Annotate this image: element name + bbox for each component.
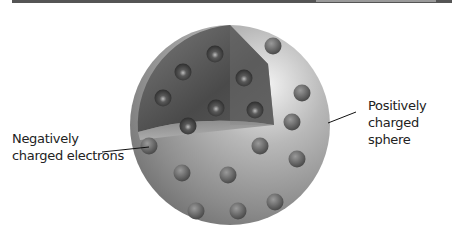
electrons-label: Negatively charged electrons	[12, 130, 124, 164]
electron	[284, 114, 301, 131]
electron	[174, 165, 191, 182]
sphere-label-line1: Positively	[368, 97, 462, 114]
electron	[208, 100, 225, 117]
electron	[155, 90, 172, 107]
sphere-label: Positively charged sphere	[368, 97, 462, 148]
electrons-label-line2: charged electrons	[12, 147, 124, 164]
electron	[188, 203, 205, 220]
electron	[141, 138, 158, 155]
sphere-label-line2: charged sphere	[368, 114, 462, 148]
electron	[180, 118, 197, 135]
electron	[252, 138, 269, 155]
electron	[175, 64, 192, 81]
electron	[236, 70, 253, 87]
electron	[207, 46, 224, 63]
electrons-label-line1: Negatively	[12, 130, 124, 147]
electron	[267, 194, 284, 211]
electron	[294, 85, 311, 102]
sphere-leader-line	[328, 112, 356, 123]
electron	[265, 38, 282, 55]
electron	[230, 203, 247, 220]
electron	[220, 167, 237, 184]
electron	[289, 151, 306, 168]
electron	[247, 102, 264, 119]
